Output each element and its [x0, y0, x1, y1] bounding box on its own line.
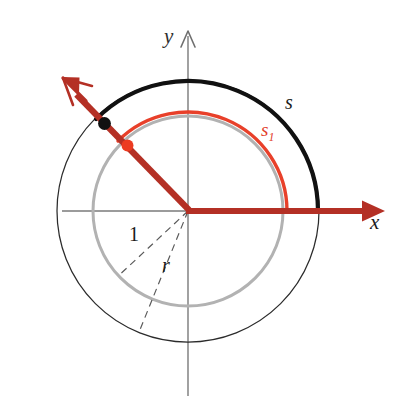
y-axis-label: y: [164, 26, 173, 47]
x-axis-label: x: [370, 212, 379, 233]
radius-r-label: r: [162, 255, 170, 275]
math-figure: s s1 x y 1 r: [0, 0, 398, 406]
arc-s-label: s: [285, 92, 293, 112]
point-on-outer-circle: [98, 117, 111, 130]
radius-unit-label: 1: [129, 224, 139, 244]
figure-canvas: [0, 0, 398, 406]
arc-s1-label-subscript: 1: [268, 130, 274, 144]
arc-s1-label: s1: [261, 120, 274, 143]
point-on-inner-arc: [122, 140, 134, 152]
